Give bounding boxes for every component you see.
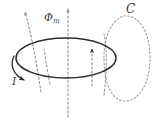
field-line-left-inner: [44, 49, 50, 84]
flux-label: Φm: [44, 12, 60, 25]
closed-curve-c: [104, 16, 150, 101]
current-label: I: [12, 76, 16, 87]
flux-subscript: m: [53, 17, 60, 25]
current-loop-ellipse: [16, 38, 116, 78]
figure-canvas: [0, 0, 156, 120]
field-line-left: [25, 12, 41, 92]
curve-c-label: C: [126, 3, 135, 15]
magnetic-field-lines: [25, 9, 106, 117]
flux-symbol: Φ: [44, 11, 53, 24]
magnetic-flux-figure: Φm C I: [0, 0, 156, 120]
